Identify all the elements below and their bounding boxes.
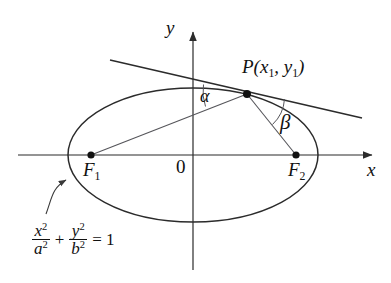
x-axis-label: x (367, 160, 375, 179)
equation-pointer-icon (46, 180, 66, 214)
ellipse-tangent-diagram: y x 0 F1 F2 P(x1, y1) α β x2 a2 + y2 b2 … (0, 0, 391, 283)
focus-1-letter: F (83, 159, 95, 180)
point-p-tail: ) (298, 56, 304, 77)
point-f2 (292, 151, 299, 158)
point-p-label: P(x1, y1) (242, 57, 304, 79)
b-symbol: b (71, 239, 80, 258)
focus-1-label: F1 (83, 160, 101, 182)
fraction-denominator-b: b2 (69, 239, 87, 257)
point-p-separator: , (274, 56, 284, 77)
plus-operator: + (50, 231, 70, 248)
fraction-numerator-x: x2 (32, 222, 49, 239)
x-exponent: 2 (42, 221, 47, 232)
y-exponent: 2 (79, 221, 84, 232)
origin-label: 0 (176, 157, 186, 176)
focus-1-subscript: 1 (95, 170, 101, 183)
point-p (243, 90, 251, 98)
y-axis-label: y (166, 18, 174, 37)
alpha-angle-label: α (200, 87, 209, 105)
beta-angle-label: β (280, 112, 290, 133)
tangent-line (110, 60, 362, 118)
fraction-denominator-a: a2 (32, 239, 50, 257)
point-p-y: y (284, 56, 292, 77)
fraction-numerator-y: y2 (70, 222, 87, 239)
ellipse-equation: x2 a2 + y2 b2 = 1 (32, 222, 119, 258)
point-p-head: P( (242, 56, 260, 77)
focus-2-letter: F (288, 159, 300, 180)
a-exponent: 2 (43, 240, 48, 251)
equals-one: = 1 (87, 231, 119, 248)
x-symbol: x (34, 221, 42, 240)
a-symbol: a (34, 239, 43, 258)
fraction-y-over-b: y2 b2 (69, 222, 87, 258)
fraction-x-over-a: x2 a2 (32, 222, 50, 258)
point-f1 (87, 151, 94, 158)
focus-2-label: F2 (288, 160, 306, 182)
focus-2-subscript: 2 (300, 170, 306, 183)
b-exponent: 2 (80, 240, 85, 251)
